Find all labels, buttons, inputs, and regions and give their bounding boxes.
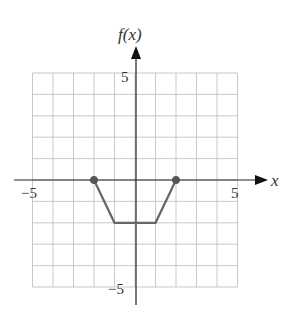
- x-axis-label: x: [270, 171, 279, 190]
- x-axis-arrow-icon: [255, 175, 268, 185]
- y-min-tick-label: −5: [108, 281, 124, 297]
- y-max-tick-label: 5: [121, 69, 129, 85]
- function-graph: f(x) x −5 5 5 −5: [0, 0, 289, 324]
- endpoint-dot: [90, 176, 97, 183]
- x-max-tick-label: 5: [231, 185, 239, 201]
- axes: [14, 46, 268, 305]
- x-min-tick-label: −5: [21, 185, 37, 201]
- y-axis-arrow-icon: [131, 46, 141, 59]
- endpoint-dot: [172, 176, 179, 183]
- y-axis-label: f(x): [118, 25, 142, 44]
